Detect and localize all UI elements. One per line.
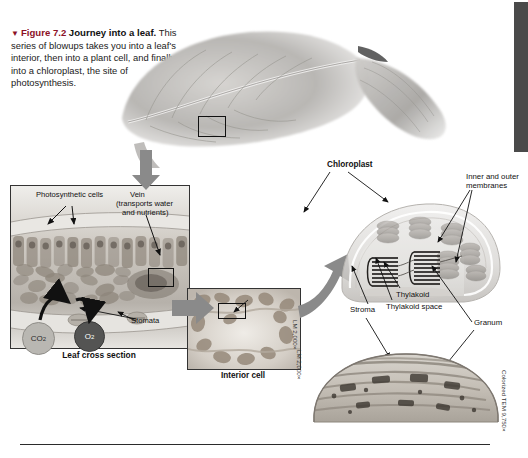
co2-label: CO — [31, 334, 43, 343]
label-vein-sub1: (transports water — [116, 199, 173, 208]
label-thylakoid: Thylakoid — [396, 290, 429, 299]
tem-left-credit: LM 2,000× — [296, 350, 303, 379]
label-photosynthetic-cells: Photosynthetic cells — [36, 190, 103, 199]
label-thylakoid-space: Thylakoid space — [386, 302, 442, 311]
caption-triangle-icon: ▼ — [11, 29, 19, 38]
tem-credit: Colorized TEM 9,750× — [501, 370, 508, 432]
chloroplast-tem-micrograph — [310, 348, 502, 426]
figure-7-2-root: ▼Figure 7.2 Journey into a leaf. This se… — [0, 0, 528, 458]
co2-subscript: 2 — [43, 336, 46, 342]
leaf-cross-section-caption: Leaf cross section — [10, 350, 188, 360]
page-edge-tab — [514, 2, 528, 152]
label-membranes-line2: membranes — [466, 181, 507, 190]
interior-cell-credit: LM 2,000× — [292, 320, 299, 349]
interior-cell-micrograph — [187, 288, 301, 370]
interior-cell-caption: Interior cell — [187, 371, 299, 380]
o2-subscript: 2 — [91, 334, 94, 340]
label-granum: Granum — [474, 318, 502, 327]
interior-cell-selection-box — [218, 303, 246, 319]
label-chloroplast: Chloroplast — [327, 160, 373, 169]
cross-section-selection-box — [148, 268, 174, 287]
leaf-sem-photo — [120, 18, 450, 168]
label-stroma: Stroma — [350, 305, 375, 314]
o2-molecule-circle: O2 — [74, 321, 105, 352]
figure-number: Figure 7.2 — [21, 27, 66, 38]
label-stomata: Stomata — [131, 316, 159, 325]
label-membranes-line1: Inner and outer — [466, 172, 519, 181]
label-vein-sub2: and nutrients) — [122, 208, 168, 217]
label-vein: Vein — [130, 190, 145, 199]
page-bottom-rule — [20, 444, 490, 445]
leaf-photo-selection-box — [198, 116, 226, 137]
